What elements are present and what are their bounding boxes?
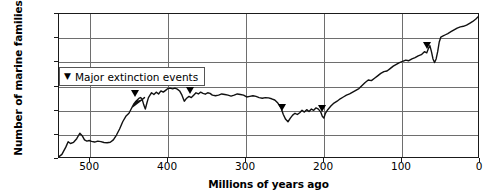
extinction-marker-icon [278,104,286,111]
x-axis-title: Millions of years ago [58,178,479,190]
x-axis-tick-mark [479,158,480,162]
extinction-marker-icon [423,42,431,49]
chart-container: Number of marine families Millions of ye… [0,0,486,196]
legend-label: Major extinction events [75,71,198,83]
y-axis-title: Number of marine families [12,0,24,158]
extinction-marker-icon [318,105,326,112]
y-axis-tick-mark [54,158,58,159]
x-axis-tick-mark [167,158,168,162]
x-axis-tick-mark [323,158,324,162]
x-axis-tick-mark [245,158,246,162]
extinction-marker-icon [131,90,139,97]
x-axis-tick-mark [401,158,402,162]
extinction-marker-icon [186,87,194,94]
extinction-marker-icon: ▼ [64,72,71,81]
x-axis-tick-mark [89,158,90,162]
legend-box: ▼ Major extinction events [59,67,205,86]
